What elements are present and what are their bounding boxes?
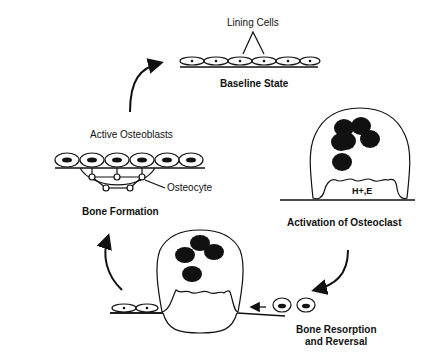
label-osteocyte: Osteocyte [167,182,212,193]
arrow-activation-to-resorption [315,250,348,290]
arrow-formation-to-baseline [130,63,160,112]
arrow-resorption-to-formation [105,237,122,290]
label-bone-formation: Bone Formation [82,206,159,217]
label-h-enzymes: H+,E [352,186,372,196]
label-baseline-state: Baseline State [220,78,288,89]
label-lining-cells: Lining Cells [227,17,279,28]
label-bone-resorption: Bone Resorption [296,324,377,335]
remodeling-diagram [0,0,447,359]
label-activation-of-osteoclast: Activation of Osteoclast [287,217,401,228]
lining-cells [180,29,320,67]
label-active-osteoblasts: Active Osteoblasts [90,129,173,140]
label-and-reversal: and Reversal [305,336,367,347]
osteoclast-activation [280,108,415,200]
osteoclast-resorption [110,230,315,333]
